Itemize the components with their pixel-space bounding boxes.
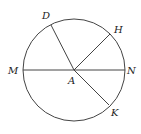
point-label-n: N [126,65,137,76]
point-label-h: H [113,24,123,35]
circle-diagram: ADHMNK [0,0,141,134]
radius-AD [51,25,74,70]
point-label-a: A [67,75,75,86]
radius-AH [74,34,110,70]
point-label-m: M [7,65,19,76]
point-label-k: K [110,107,119,118]
point-label-d: D [41,10,50,21]
radius-AK [74,70,109,105]
